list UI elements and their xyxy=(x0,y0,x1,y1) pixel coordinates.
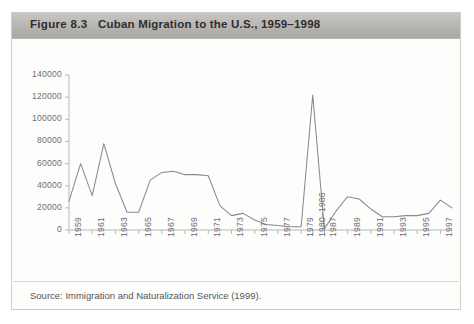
x-tick-label: 1987 xyxy=(328,217,338,237)
x-tick-label: 1973 xyxy=(235,217,245,237)
source-note: Source: Immigration and Naturalization S… xyxy=(30,290,261,301)
y-tick-label: 40000 xyxy=(37,180,62,190)
chart-axes xyxy=(69,75,452,230)
x-tick-label: 1991 xyxy=(375,217,385,237)
y-tick-label: 20000 xyxy=(37,202,62,212)
x-tick-label: 1980–1986 xyxy=(317,192,327,237)
line-chart xyxy=(12,39,460,283)
x-tick-label: 1959 xyxy=(73,217,83,237)
x-tick-label: 1979 xyxy=(305,217,315,237)
y-tick-label: 0 xyxy=(57,224,62,234)
figure-number-label: Figure 8.3 xyxy=(30,18,87,30)
x-tick-label: 1995 xyxy=(421,217,431,237)
y-tick-label: 120000 xyxy=(32,91,62,101)
x-tick-label: 1963 xyxy=(119,217,129,237)
x-tick-label: 1971 xyxy=(212,217,222,237)
y-tick-label: 140000 xyxy=(32,69,62,79)
figure-title: Cuban Migration to the U.S., 1959–1998 xyxy=(98,18,320,30)
x-tick-label: 1965 xyxy=(143,217,153,237)
y-axis-ticks xyxy=(65,75,69,230)
figure-container: Figure 8.3 Cuban Migration to the U.S., … xyxy=(11,12,461,310)
y-tick-label: 80000 xyxy=(37,135,62,145)
x-tick-label: 1997 xyxy=(444,217,454,237)
x-tick-label: 1969 xyxy=(189,217,199,237)
y-tick-label: 60000 xyxy=(37,158,62,168)
x-tick-label: 1993 xyxy=(398,217,408,237)
source-divider xyxy=(13,281,459,282)
migration-data-line xyxy=(69,95,452,229)
chart-plot-area: 020000400006000080000100000120000140000 … xyxy=(12,39,460,283)
y-tick-label: 100000 xyxy=(32,113,62,123)
figure-header-band: Figure 8.3 Cuban Migration to the U.S., … xyxy=(12,13,460,39)
x-tick-label: 1977 xyxy=(282,217,292,237)
x-tick-label: 1961 xyxy=(96,217,106,237)
x-tick-label: 1967 xyxy=(166,217,176,237)
x-tick-label: 1975 xyxy=(259,217,269,237)
x-tick-label: 1989 xyxy=(352,217,362,237)
